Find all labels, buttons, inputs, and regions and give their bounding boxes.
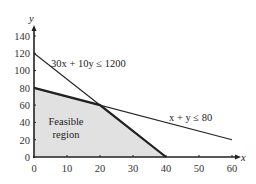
svg-text:120: 120	[14, 48, 30, 59]
svg-text:40: 40	[161, 163, 172, 174]
svg-text:140: 140	[14, 31, 30, 42]
svg-text:30: 30	[128, 163, 139, 174]
svg-text:20: 20	[95, 163, 106, 174]
x-axis-label: x	[240, 152, 246, 163]
svg-text:0: 0	[25, 152, 30, 163]
y-tick-labels: 0 20 40 60 80 100 120 140	[14, 31, 30, 163]
svg-text:20: 20	[20, 135, 31, 146]
svg-text:50: 50	[194, 163, 205, 174]
y-axis-label: y	[28, 13, 34, 24]
svg-text:60: 60	[227, 163, 238, 174]
constraint-1-label: 30x + 10y ≤ 1200	[51, 58, 126, 69]
feasible-region-label: Feasible	[49, 116, 84, 127]
x-tick-labels: 0 10 20 30 40 50 60	[31, 163, 237, 174]
svg-text:40: 40	[20, 117, 31, 128]
feasible-region-label-2: region	[53, 129, 81, 140]
svg-text:80: 80	[20, 83, 31, 94]
svg-text:0: 0	[31, 163, 36, 174]
feasible-region-chart: 0 10 20 30 40 50 60 0 20 40 60 80 100 12…	[0, 0, 256, 184]
svg-text:100: 100	[14, 65, 30, 76]
svg-text:60: 60	[20, 100, 31, 111]
constraint-2-label: x + y ≤ 80	[169, 112, 212, 123]
y-axis-arrow-icon	[32, 25, 37, 31]
svg-text:10: 10	[62, 163, 73, 174]
